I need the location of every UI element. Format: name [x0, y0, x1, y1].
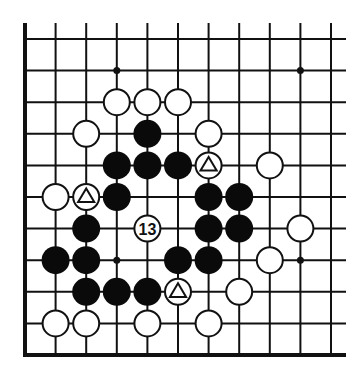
- black-stone: [72, 246, 100, 274]
- white-stone: [287, 216, 313, 242]
- black-stone-circle: [103, 278, 131, 306]
- black-stone-circle: [133, 120, 161, 148]
- white-stone: [196, 310, 222, 336]
- white-stone: [257, 247, 283, 273]
- white-stone: [226, 279, 252, 305]
- white-stone-circle: [73, 310, 99, 336]
- go-board-diagram: 13: [0, 0, 361, 375]
- white-stone-circle: [196, 121, 222, 147]
- move-number-label: 13: [139, 221, 157, 238]
- black-stone-circle: [225, 215, 253, 243]
- white-stone-circle: [196, 310, 222, 336]
- white-stone: [134, 89, 160, 115]
- white-stone: [43, 310, 69, 336]
- black-stone: [103, 151, 131, 179]
- white-stone-circle: [134, 89, 160, 115]
- white-stone-circle: [73, 121, 99, 147]
- black-stone-circle: [195, 246, 223, 274]
- white-stone: [134, 310, 160, 336]
- black-stone-circle: [42, 246, 70, 274]
- white-stone-circle: [257, 152, 283, 178]
- black-stone: [164, 151, 192, 179]
- black-stone: [133, 151, 161, 179]
- black-stone: [164, 246, 192, 274]
- black-stone: [72, 215, 100, 243]
- grid-lines: [25, 23, 346, 357]
- white-stone: [73, 184, 99, 210]
- white-stone-circle: [165, 89, 191, 115]
- black-stone: [103, 278, 131, 306]
- white-stone: [43, 184, 69, 210]
- white-stone-circle: [104, 89, 130, 115]
- white-stone: [104, 89, 130, 115]
- black-stone-circle: [72, 246, 100, 274]
- black-stone: [225, 183, 253, 211]
- white-stone: 13: [134, 216, 160, 242]
- white-stone-circle: [257, 247, 283, 273]
- star-point: [113, 257, 120, 264]
- black-stone: [195, 183, 223, 211]
- white-stone: [73, 310, 99, 336]
- star-point: [297, 67, 304, 74]
- white-stone-circle: [43, 184, 69, 210]
- star-point: [297, 257, 304, 264]
- white-stone: [196, 152, 222, 178]
- black-stone-circle: [195, 183, 223, 211]
- black-stone: [195, 246, 223, 274]
- black-stone-circle: [72, 215, 100, 243]
- go-board: 13: [0, 0, 361, 375]
- black-stone-circle: [195, 215, 223, 243]
- white-stone: [165, 89, 191, 115]
- white-stone: [73, 121, 99, 147]
- black-stone: [133, 278, 161, 306]
- star-point: [113, 67, 120, 74]
- black-stone: [72, 278, 100, 306]
- white-stone-circle: [134, 310, 160, 336]
- white-stone: [196, 121, 222, 147]
- black-stone: [133, 120, 161, 148]
- black-stone: [225, 215, 253, 243]
- black-stone-circle: [225, 183, 253, 211]
- black-stone: [103, 183, 131, 211]
- white-stone-circle: [287, 216, 313, 242]
- black-stone-circle: [164, 246, 192, 274]
- black-stone-circle: [164, 151, 192, 179]
- black-stone-circle: [72, 278, 100, 306]
- black-stone-circle: [103, 151, 131, 179]
- black-stone: [42, 246, 70, 274]
- black-stone: [195, 215, 223, 243]
- white-stone-circle: [43, 310, 69, 336]
- white-stone: [165, 279, 191, 305]
- white-stone-circle: [226, 279, 252, 305]
- black-stone-circle: [133, 151, 161, 179]
- black-stone-circle: [133, 278, 161, 306]
- black-stone-circle: [103, 183, 131, 211]
- white-stone: [257, 152, 283, 178]
